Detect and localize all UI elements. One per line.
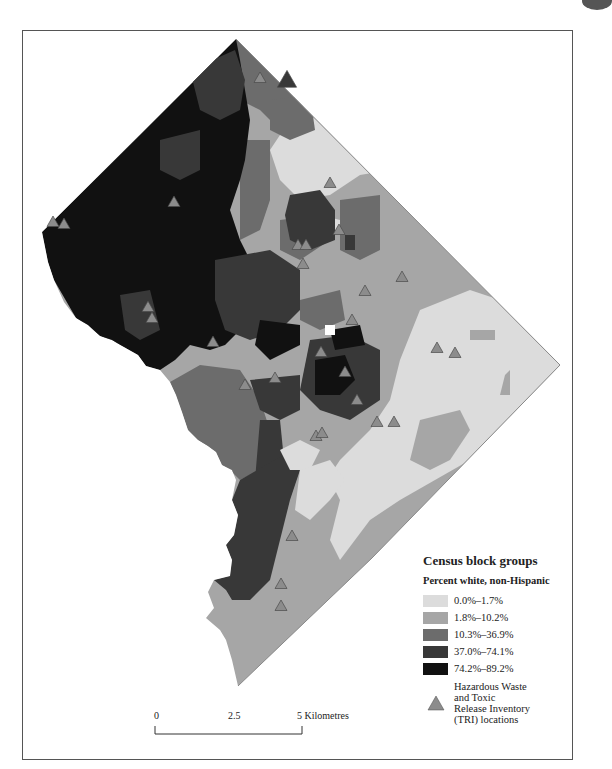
legend-swatch — [423, 646, 448, 658]
figure-caption-cutoff — [22, 762, 582, 769]
legend-tri-line-1: Hazardous Waste — [454, 681, 527, 692]
legend: Census block groups Percent white, non-H… — [423, 553, 573, 725]
legend-class-row: 0.0%–1.7% — [423, 592, 573, 609]
legend-class-row: 37.0%–74.1% — [423, 643, 573, 660]
scale-bar: 0 2.5 5 Kilometres — [150, 710, 370, 740]
legend-tri-line-4: (TRI) locations — [454, 714, 518, 725]
legend-tri-line-3: Release Inventory — [454, 703, 530, 714]
legend-class-label: 37.0%–74.1% — [454, 646, 514, 657]
legend-tri-label: Hazardous Waste and Toxic Release Invent… — [454, 681, 530, 725]
legend-swatch — [423, 629, 448, 641]
legend-subtitle: Percent white, non-Hispanic — [423, 575, 573, 586]
legend-tri-entry: Hazardous Waste and Toxic Release Invent… — [423, 681, 573, 725]
legend-class-label: 0.0%–1.7% — [454, 595, 503, 606]
region-east-island — [470, 330, 495, 340]
legend-class-label: 10.3%–36.9% — [454, 629, 514, 640]
region-no-data — [325, 325, 335, 335]
legend-title: Census block groups — [423, 553, 573, 569]
legend-class-row: 74.2%–89.2% — [423, 660, 573, 677]
legend-tri-line-2: and Toxic — [454, 692, 495, 703]
legend-swatch — [423, 595, 448, 607]
legend-class-row: 1.8%–10.2% — [423, 609, 573, 626]
tri-location-marker — [277, 70, 296, 87]
triangle-icon — [423, 695, 448, 711]
legend-swatch — [423, 612, 448, 624]
legend-swatch — [423, 663, 448, 675]
legend-class-label: 1.8%–10.2% — [454, 612, 508, 623]
legend-class-row: 10.3%–36.9% — [423, 626, 573, 643]
region-small-dark — [345, 235, 355, 250]
scale-bar-line — [150, 710, 370, 740]
legend-class-label: 74.2%–89.2% — [454, 663, 514, 674]
region-northeast-medium — [340, 195, 380, 260]
